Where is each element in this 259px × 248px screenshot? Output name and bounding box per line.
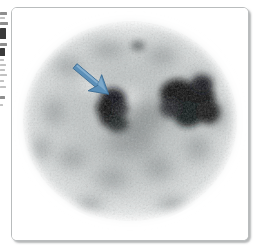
gutter-text-fragment — [0, 22, 8, 25]
figure-frame — [11, 7, 249, 241]
gutter-text-fragment — [0, 12, 7, 15]
gutter-text-fragment — [0, 43, 7, 46]
gutter-text-fragment — [0, 96, 5, 99]
scan-svg — [12, 8, 248, 240]
figure-page — [0, 0, 259, 248]
gutter-text-fragment — [0, 59, 4, 61]
gutter-text-fragment — [0, 28, 6, 39]
gutter-text-fragments — [0, 0, 9, 248]
gutter-text-fragment — [0, 64, 6, 66]
gutter-text-fragment — [0, 80, 4, 82]
gutter-text-fragment — [0, 104, 3, 106]
gutter-text-fragment — [0, 69, 5, 71]
gutter-text-fragment — [0, 17, 5, 19]
gutter-text-fragment — [0, 74, 7, 76]
scan-image — [12, 8, 248, 240]
gutter-text-fragment — [0, 86, 6, 88]
gutter-text-fragment — [0, 48, 5, 56]
